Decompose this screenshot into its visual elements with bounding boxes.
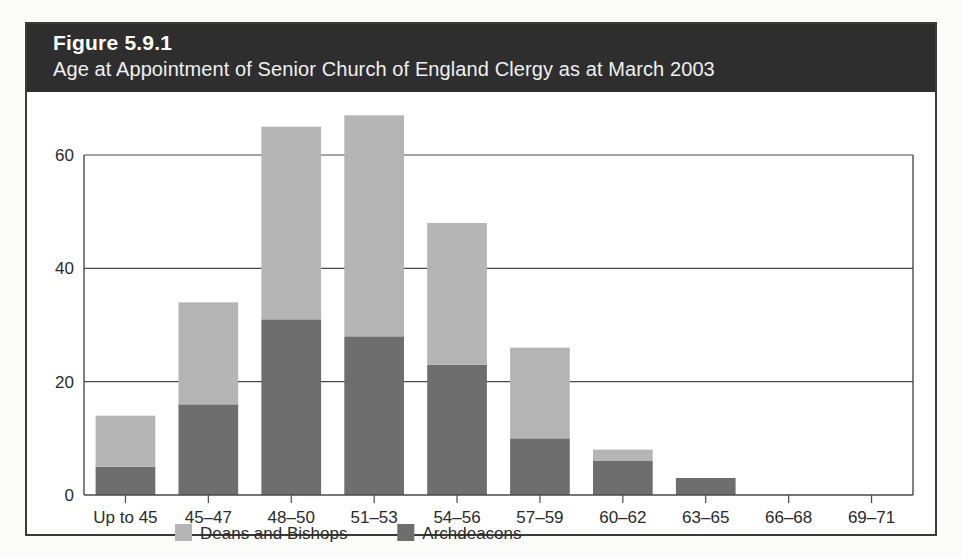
y-tick-label: 60 xyxy=(55,146,74,165)
figure-title: Age at Appointment of Senior Church of E… xyxy=(53,56,935,82)
figure-title-band: Figure 5.9.1 Age at Appointment of Senio… xyxy=(27,24,935,92)
figure-root: Figure 5.9.1 Age at Appointment of Senio… xyxy=(0,0,961,559)
x-tick-label: 51–53 xyxy=(351,508,398,527)
bar-segment-archdeacons xyxy=(427,365,487,495)
x-tick-label: 60–62 xyxy=(599,508,646,527)
x-tick-label: 69–71 xyxy=(848,508,895,527)
bar-segment-archdeacons xyxy=(344,336,404,495)
figure-number: Figure 5.9.1 xyxy=(53,30,935,56)
bar-segment-deans-and-bishops xyxy=(510,348,570,439)
legend-label: Deans and Bishops xyxy=(200,524,347,543)
y-tick-label: 0 xyxy=(65,486,74,505)
legend-swatch xyxy=(175,524,192,541)
x-tick-label: 63–65 xyxy=(682,508,729,527)
bar-segment-deans-and-bishops xyxy=(593,450,653,461)
bar-segment-archdeacons xyxy=(261,319,321,495)
bar-segment-archdeacons xyxy=(510,438,570,495)
bars-group xyxy=(96,115,736,495)
y-tick-label: 40 xyxy=(55,259,74,278)
x-tick-label: 57–59 xyxy=(516,508,563,527)
bar-segment-archdeacons xyxy=(179,404,239,495)
plot-area: 0204060 Up to 4545–4748–5051–5354–5657–5… xyxy=(27,92,935,534)
bar-segment-archdeacons xyxy=(676,478,736,495)
bar-segment-deans-and-bishops xyxy=(261,127,321,320)
bar-segment-archdeacons xyxy=(593,461,653,495)
x-tick-label: 66–68 xyxy=(765,508,812,527)
bar-segment-deans-and-bishops xyxy=(96,416,156,467)
chart-legend: Deans and BishopsArchdeacons xyxy=(175,524,522,543)
legend-label: Archdeacons xyxy=(422,524,521,543)
legend-swatch xyxy=(397,524,414,541)
bar-chart: 0204060 Up to 4545–4748–5051–5354–5657–5… xyxy=(27,92,935,559)
y-tick-label: 20 xyxy=(55,373,74,392)
bar-segment-deans-and-bishops xyxy=(427,223,487,365)
figure-card: Figure 5.9.1 Age at Appointment of Senio… xyxy=(25,22,937,536)
bar-segment-deans-and-bishops xyxy=(179,302,239,404)
x-tick-label: Up to 45 xyxy=(93,508,157,527)
bar-segment-deans-and-bishops xyxy=(344,115,404,336)
y-tick-labels: 0204060 xyxy=(55,146,74,505)
bar-segment-archdeacons xyxy=(96,467,156,495)
